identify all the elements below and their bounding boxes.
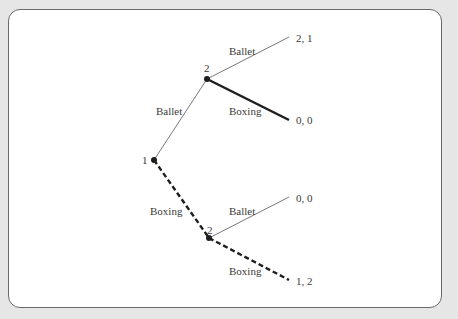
payoff-boxing-ballet: 0, 0 [296, 192, 313, 204]
label-player-upper: 2 [204, 62, 210, 74]
node-root [151, 157, 157, 163]
label-edge-lower-ballet: Ballet [229, 205, 255, 217]
label-edge-upper-boxing: Boxing [229, 105, 262, 117]
node-upper [204, 76, 210, 82]
label-edge-upper-ballet: Ballet [229, 45, 255, 57]
edge-root-ballet [154, 79, 207, 160]
edge-lower-ballet [209, 197, 289, 238]
label-player-root: 1 [142, 154, 148, 166]
label-edge-root-ballet: Ballet [156, 105, 182, 117]
edge-root-boxing [154, 160, 209, 238]
payoff-ballet-ballet: 2, 1 [296, 32, 313, 44]
payoff-ballet-boxing: 0, 0 [296, 114, 313, 126]
label-player-lower: 2 [207, 224, 213, 236]
figure-canvas: 1 2 2 Ballet Boxing Ballet Boxing Ballet… [0, 0, 458, 319]
game-tree: 1 2 2 Ballet Boxing Ballet Boxing Ballet… [0, 0, 458, 319]
label-edge-root-boxing: Boxing [150, 205, 183, 217]
label-edge-lower-boxing: Boxing [229, 265, 262, 277]
payoff-boxing-boxing: 1, 2 [296, 275, 313, 287]
edge-upper-ballet [207, 37, 289, 79]
